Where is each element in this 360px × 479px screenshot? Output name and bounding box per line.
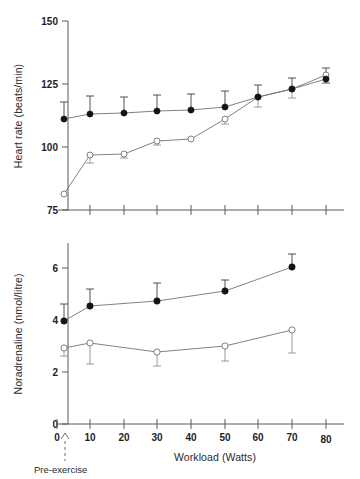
bottom-open-series-line <box>64 330 292 352</box>
data-point <box>222 104 228 110</box>
data-point <box>154 349 160 355</box>
bottom-y-axis-title: Noradrenaline (nmol/litre) <box>12 273 24 394</box>
data-point <box>154 298 160 304</box>
data-point <box>289 327 295 333</box>
bottom-ytick-label-2: 2 <box>52 367 58 378</box>
bottom-xtick-label-0: 0 <box>54 432 60 443</box>
bottom-xtick-label-40: 40 <box>185 432 197 443</box>
data-point <box>222 288 228 294</box>
data-point <box>87 111 93 117</box>
pre-exercise-arrow-icon <box>61 433 69 461</box>
data-point <box>87 340 93 346</box>
data-point <box>222 116 228 122</box>
data-point <box>222 343 228 349</box>
data-point <box>289 264 295 270</box>
bottom-open-errorbars <box>60 330 296 366</box>
data-point <box>255 94 261 100</box>
bottom-open-markers <box>61 327 295 355</box>
data-point <box>188 136 194 142</box>
bottom-xtick-label-20: 20 <box>118 432 130 443</box>
data-point <box>154 138 160 144</box>
bottom-panel: 6 4 2 0 0 10 20 30 40 50 60 70 80 Noradr… <box>12 243 344 475</box>
data-point <box>154 108 160 114</box>
data-point <box>323 76 329 82</box>
bottom-ytick-label-0: 0 <box>52 419 58 430</box>
bottom-xtick-label-50: 50 <box>219 432 231 443</box>
data-point <box>61 345 67 351</box>
top-open-markers <box>61 72 329 197</box>
top-panel: 150 125 100 75 Heart rate (beats/min) <box>12 16 344 216</box>
data-point <box>61 116 67 122</box>
data-point <box>289 86 295 92</box>
data-point <box>61 318 67 324</box>
bottom-filled-errorbars <box>60 254 296 321</box>
bottom-filled-markers <box>61 264 295 324</box>
data-point <box>87 303 93 309</box>
data-point <box>121 151 127 157</box>
top-open-series-line <box>64 75 326 194</box>
bottom-xtick-label-30: 30 <box>151 432 163 443</box>
bottom-xtick-label-80: 80 <box>320 434 332 445</box>
top-ytick-label-125: 125 <box>41 79 58 90</box>
top-y-ticks <box>62 21 68 210</box>
data-point <box>61 191 67 197</box>
top-ytick-label-75: 75 <box>47 205 59 216</box>
bottom-xtick-label-10: 10 <box>84 432 96 443</box>
bottom-xtick-label-70: 70 <box>286 432 298 443</box>
bottom-ytick-label-4: 4 <box>52 315 58 326</box>
top-y-axis-title: Heart rate (beats/min) <box>12 64 24 168</box>
bottom-ytick-label-6: 6 <box>52 263 58 274</box>
data-point <box>87 152 93 158</box>
top-filled-markers <box>61 76 329 122</box>
pre-exercise-label: Pre-exercise <box>34 464 87 475</box>
figure-root: 150 125 100 75 Heart rate (beats/min) <box>0 0 360 479</box>
data-point <box>121 110 127 116</box>
top-ytick-label-150: 150 <box>41 16 58 27</box>
bottom-x-axis-title: Workload (Watts) <box>174 451 256 463</box>
top-filled-errorbars <box>60 68 330 119</box>
top-ytick-label-100: 100 <box>41 142 58 153</box>
top-filled-series-line <box>64 79 326 119</box>
bottom-filled-series-line <box>64 267 292 321</box>
data-point <box>188 107 194 113</box>
bottom-xtick-label-60: 60 <box>252 432 264 443</box>
